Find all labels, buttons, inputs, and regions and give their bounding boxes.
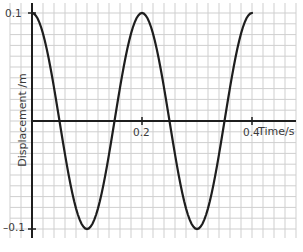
y-tick-label-bottom: –0.1 (3, 221, 25, 233)
displacement-time-chart: 0.1 –0.1 0.2 0.4 Time/s Displacement /m (0, 0, 303, 252)
y-axis-label: Displacement /m (16, 73, 29, 167)
x-axis-label: Time/s (257, 125, 295, 138)
x-tick-label-0.2: 0.2 (133, 126, 150, 138)
y-tick-label-top: 0.1 (5, 7, 22, 19)
